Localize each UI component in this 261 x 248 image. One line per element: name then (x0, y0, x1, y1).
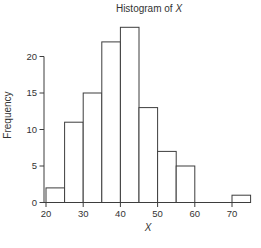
x-axis-label: X (144, 222, 152, 233)
y-tick-label-20: 20 (26, 51, 37, 62)
x-tick-label-20: 20 (41, 208, 52, 219)
histogram-bar-35-40 (102, 42, 121, 203)
chart-title-variable: X (174, 3, 182, 14)
chart-title: Histogram of X (116, 3, 182, 14)
histogram-chart: 05101520203040506070 Histogram of X X Fr… (0, 0, 261, 248)
histogram-bar-20-25 (46, 188, 65, 203)
histogram-bar-50-55 (158, 151, 177, 202)
y-axis-label: Frequency (2, 91, 13, 138)
y-tick-label-5: 5 (32, 160, 37, 171)
chart-title-prefix: Histogram of (116, 3, 175, 14)
bars-group (46, 27, 251, 202)
x-tick-label-30: 30 (78, 208, 89, 219)
x-tick-label-40: 40 (115, 208, 126, 219)
histogram-bar-70-75 (232, 195, 251, 202)
histogram-bar-55-60 (176, 166, 195, 203)
histogram-bar-45-50 (139, 108, 158, 203)
x-tick-label-50: 50 (152, 208, 163, 219)
histogram-bar-30-35 (83, 93, 102, 203)
y-tick-label-0: 0 (32, 197, 37, 208)
histogram-bar-40-45 (120, 27, 139, 202)
histogram-bar-25-30 (65, 122, 84, 202)
x-tick-label-60: 60 (190, 208, 201, 219)
histogram-figure: 05101520203040506070 Histogram of X X Fr… (0, 0, 261, 248)
y-tick-label-10: 10 (26, 124, 37, 135)
y-tick-label-15: 15 (26, 87, 37, 98)
x-tick-label-70: 70 (227, 208, 238, 219)
